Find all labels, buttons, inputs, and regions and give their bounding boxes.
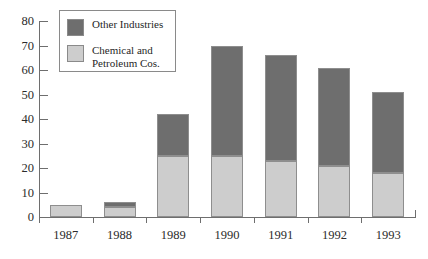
bar-segment-other-industries-1990 [211,46,243,156]
y-tick-label: 70 [8,40,34,53]
x-axis-line [39,217,416,218]
bar-segment-chemical-petroleum-1987 [50,205,82,217]
bar-1988 [104,202,136,217]
y-tick-label: 10 [8,187,34,200]
y-tick-label: 60 [8,64,34,77]
bar-segment-other-industries-1992 [318,68,350,166]
x-tick-label-1989: 1989 [143,229,203,242]
bar-1989 [157,114,189,217]
bar-segment-chemical-petroleum-1991 [265,161,297,217]
x-tick [146,218,147,223]
x-tick [254,218,255,223]
y-tick [40,168,48,169]
x-tick-label-1990: 1990 [197,229,257,242]
x-tick-label-1988: 1988 [90,229,150,242]
bar-1990 [211,46,243,218]
legend-swatch-chemical-petroleum [67,45,84,62]
y-tick-label: 50 [8,89,34,102]
y-tick [40,119,48,120]
y-tick-label: 40 [8,113,34,126]
x-tick [361,218,362,223]
bar-1987 [50,205,82,217]
legend-entry-chemical-petroleum: Chemical and Petroleum Cos. [67,44,160,69]
legend-label-other-industries: Other Industries [92,18,163,31]
x-tick-label-1993: 1993 [358,229,418,242]
x-tick [308,218,309,223]
bar-1991 [265,55,297,217]
y-tick-label: 30 [8,138,34,151]
legend-label-chemical-petroleum: Chemical and Petroleum Cos. [92,44,160,69]
legend-swatch-other-industries [67,19,84,36]
stacked-bar-chart: 01020304050607080 1987198819891990199119… [0,0,428,259]
bar-segment-chemical-petroleum-1988 [104,207,136,217]
x-tick [93,218,94,223]
y-tick-label: 0 [8,211,34,224]
y-tick [40,46,48,47]
bar-segment-chemical-petroleum-1992 [318,166,350,217]
bar-1992 [318,68,350,217]
x-tick [39,218,40,223]
x-tick [200,218,201,223]
y-tick [40,217,48,218]
y-tick-label: 20 [8,162,34,175]
y-tick [40,21,48,22]
bar-segment-other-industries-1993 [372,92,404,173]
y-tick [40,70,48,71]
y-tick [40,144,48,145]
bar-segment-chemical-petroleum-1993 [372,173,404,217]
x-tick-label-1992: 1992 [304,229,364,242]
bar-segment-chemical-petroleum-1990 [211,156,243,217]
x-tick-label-1987: 1987 [36,229,96,242]
y-tick [40,95,48,96]
legend-entry-other-industries: Other Industries [67,18,163,36]
bar-segment-other-industries-1991 [265,55,297,160]
bar-1993 [372,92,404,217]
y-tick [40,193,48,194]
x-axis-end-cap [415,210,416,218]
bar-segment-chemical-petroleum-1989 [157,156,189,217]
bar-segment-other-industries-1989 [157,114,189,156]
y-tick-label: 80 [8,15,34,28]
x-tick-label-1991: 1991 [251,229,311,242]
chart-legend: Other Industries Chemical and Petroleum … [59,10,176,72]
